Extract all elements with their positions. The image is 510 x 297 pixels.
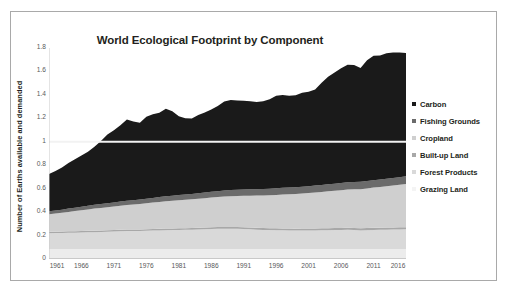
y-axis-tick-label: 0.4 (37, 208, 46, 215)
x-axis-tick-labels: 1961196619711976198119861991199620012006… (49, 263, 406, 275)
legend-item-grazing-land[interactable]: Grazing Land (412, 181, 504, 197)
y-axis-tick-label: 0.6 (37, 185, 46, 192)
area-series-group (49, 52, 406, 259)
area-series-grazing-land (49, 249, 406, 259)
y-axis-tick-label: 1 (42, 138, 46, 145)
x-axis-tick-label: 1986 (204, 263, 219, 270)
legend-swatch-icon (412, 187, 416, 191)
legend-item-label: Cropland (420, 134, 453, 143)
legend-swatch-icon (412, 153, 416, 157)
x-axis-tick-label: 1966 (74, 263, 89, 270)
legend-item-label: Grazing Land (420, 185, 468, 194)
x-axis-tick-label: 1976 (139, 263, 154, 270)
y-axis-tick-label: 0.2 (37, 232, 46, 239)
legend-item-label: Fishing Grounds (420, 117, 480, 126)
plot-area (49, 48, 406, 259)
legend-item-built-up-land[interactable]: Built-up Land (412, 147, 504, 163)
x-axis-tick-label: 1961 (50, 263, 65, 270)
y-axis-tick-labels: 00.20.40.60.811.21.41.61.8 (24, 48, 46, 259)
legend-item-cropland[interactable]: Cropland (412, 130, 504, 146)
legend-item-label: Forest Products (420, 168, 477, 177)
legend-item-fishing-grounds[interactable]: Fishing Grounds (412, 113, 504, 129)
y-axis-tick-label: 1.6 (37, 67, 46, 74)
y-axis-tick-label: 1.4 (37, 91, 46, 98)
y-axis-tick-label: 0.8 (37, 161, 46, 168)
legend-swatch-icon (412, 170, 416, 174)
x-axis-tick-label: 2006 (334, 263, 349, 270)
legend-swatch-icon (412, 119, 416, 123)
y-axis-tick-label: 1.2 (37, 114, 46, 121)
x-axis-tick-label: 1991 (236, 263, 251, 270)
figure-canvas: World Ecological Footprint by Component … (0, 0, 510, 297)
x-axis-tick-label: 2011 (366, 263, 380, 270)
x-axis-tick-label: 1996 (269, 263, 284, 270)
legend-swatch-icon (412, 136, 416, 140)
chart-legend: CarbonFishing GroundsCroplandBuilt-up La… (412, 96, 504, 198)
x-axis-tick-label: 1981 (171, 263, 186, 270)
stacked-area-chart (49, 48, 406, 259)
page-title: World Ecological Footprint by Component (60, 34, 360, 46)
x-axis-tick-label: 2016 (391, 263, 406, 270)
x-axis-tick-label: 2001 (301, 263, 316, 270)
legend-item-carbon[interactable]: Carbon (412, 96, 504, 112)
x-axis-tick-label: 1971 (107, 263, 122, 270)
y-axis-tick-label: 1.8 (37, 44, 46, 51)
y-axis-label: Number of Earths available and demanded (15, 52, 24, 262)
legend-item-label: Carbon (420, 100, 446, 109)
y-axis-tick-label: 0 (42, 255, 46, 262)
legend-swatch-icon (412, 102, 416, 106)
legend-item-forest-products[interactable]: Forest Products (412, 164, 504, 180)
legend-item-label: Built-up Land (420, 151, 468, 160)
